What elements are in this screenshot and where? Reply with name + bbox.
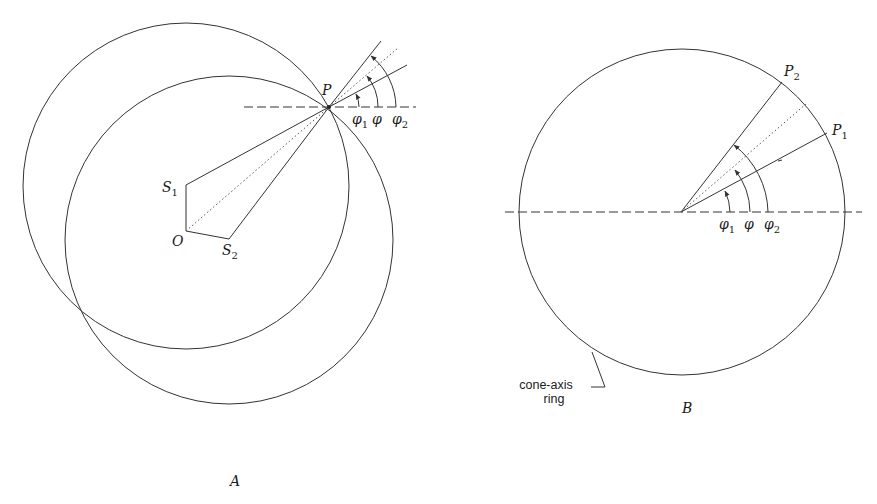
panel-label-a: A: [228, 473, 240, 489]
label-p1: P1: [831, 122, 848, 141]
tick-mark-b: [778, 160, 782, 161]
ray-phi-a: [329, 48, 398, 107]
label-phi2-b: φ2: [764, 216, 780, 235]
label-p2: P2: [783, 63, 800, 82]
arc-phi1-a: [356, 94, 359, 107]
label-phi-b: φ: [744, 216, 754, 232]
callout-line1: cone-axis: [519, 378, 573, 392]
label-s1: S1: [162, 179, 178, 198]
label-o: O: [172, 233, 184, 249]
diagram-canvas: P S1 O S2 φ1 φ φ2 A P2 P1 φ1 φ φ2 cone-a…: [0, 0, 877, 504]
arc-phi1-b: [725, 191, 730, 212]
ray-p1-b: [681, 133, 827, 212]
label-phi-a: φ: [372, 111, 382, 127]
label-p: P: [321, 82, 332, 98]
source-polygon: [186, 107, 329, 239]
arc-phi2-b: [734, 145, 768, 212]
arc-phi-a: [367, 76, 378, 107]
ray-p2-b: [681, 82, 782, 212]
panel-b: P2 P1 φ1 φ φ2 cone-axis ring B: [505, 49, 862, 416]
ray-phi2-a: [329, 41, 381, 107]
arc-phi2-a: [371, 56, 396, 107]
callout-leader-line: [591, 352, 605, 387]
diagram-figure: P S1 O S2 φ1 φ φ2 A P2 P1 φ1 φ φ2 cone-a…: [0, 0, 877, 504]
ray-phi-b: [681, 104, 806, 212]
label-phi1-b: φ1: [719, 216, 735, 235]
label-phi2-a: φ2: [392, 111, 408, 130]
label-s2: S2: [222, 242, 238, 261]
label-phi1-a: φ1: [352, 111, 368, 130]
panel-label-b: B: [681, 400, 692, 416]
callout-line2: ring: [544, 392, 565, 406]
point-p-dot: [327, 105, 331, 109]
o-to-p-dotted-line: [186, 107, 329, 231]
circle-s2: [65, 76, 393, 404]
panel-a: P S1 O S2 φ1 φ φ2 A: [23, 23, 416, 489]
